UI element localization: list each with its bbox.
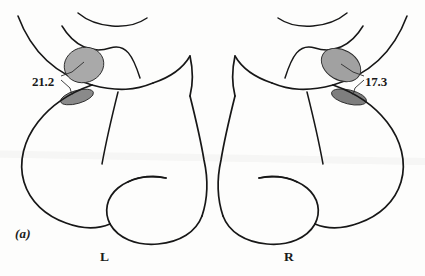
right-temporal-lobe-upper (259, 176, 318, 224)
right-midline-upper-connector (235, 56, 272, 83)
right-temporal-lobe-lower (223, 216, 315, 244)
brain-outline-diagram (0, 0, 425, 276)
right-sylvian-fissure (259, 177, 297, 182)
left-upper-roi (60, 42, 109, 88)
right-central-sulcus (307, 92, 323, 164)
right-hemisphere-group (218, 13, 407, 244)
roi-value-label-left: 21.2 (32, 74, 54, 90)
scan-artifact-line (0, 154, 425, 163)
panel-letter-label: (a) (15, 226, 31, 242)
left-hemisphere-group (18, 13, 207, 244)
right-upper-roi (315, 42, 366, 89)
roi-value-label-right: 17.3 (365, 74, 387, 90)
right-lower-roi (330, 86, 368, 108)
right-superior-inner-arc (278, 13, 347, 26)
left-superior-inner-arc (78, 13, 147, 26)
figure-panel: 21.2 17.3 L R (a) (0, 0, 425, 276)
left-sylvian-fissure (128, 177, 166, 182)
left-temporal-lobe-lower (110, 216, 202, 244)
left-lower-roi (59, 86, 95, 108)
left-temporal-lobe-upper (107, 176, 166, 224)
hemisphere-label-right: R (284, 249, 294, 265)
hemisphere-label-left: L (100, 249, 109, 265)
left-midline-edge (190, 56, 192, 96)
right-midline-edge (233, 56, 235, 96)
left-midline-upper-connector (153, 56, 190, 83)
